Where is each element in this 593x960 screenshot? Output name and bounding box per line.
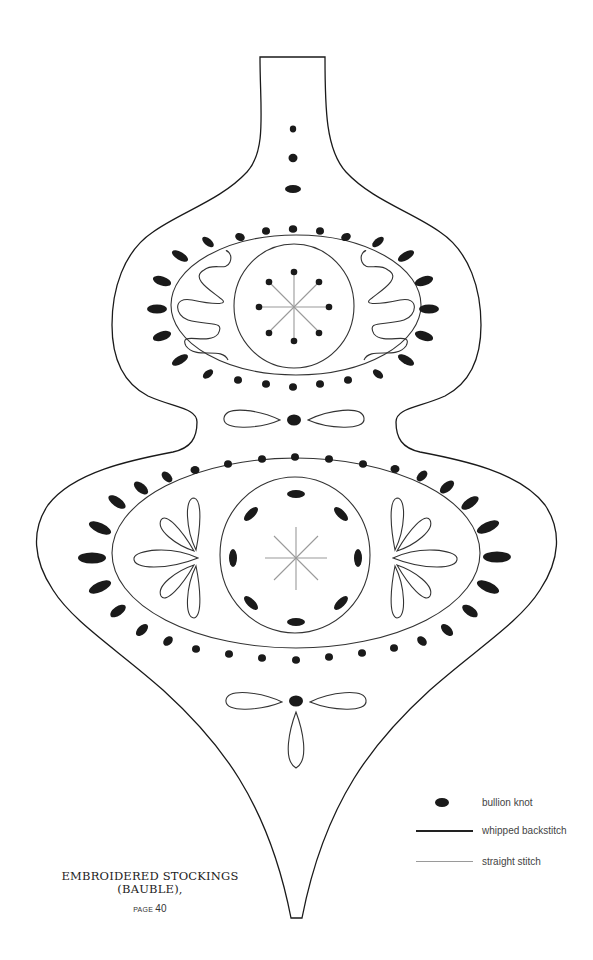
whipped-backstitch-line-icon — [416, 823, 473, 837]
lower-circle — [220, 477, 370, 633]
legend-label: whipped backstitch — [482, 825, 567, 836]
page-label: PAGE — [133, 906, 153, 913]
upper-medallion — [171, 235, 421, 375]
straight-stitch-line-icon — [416, 854, 473, 868]
caption-title-line-2: (BAUBLE), — [30, 883, 270, 896]
waist-motif — [224, 410, 364, 427]
legend-item-whipped-backstitch: whipped backstitch — [416, 823, 567, 837]
legend-item-straight-stitch: straight stitch — [416, 854, 541, 868]
legend-item-bullion-knot: bullion knot — [416, 795, 533, 809]
bauble-template — [0, 0, 593, 960]
page-reference: PAGE40 — [30, 902, 270, 916]
legend-label: bullion knot — [482, 797, 533, 808]
legend-label: straight stitch — [482, 856, 541, 867]
bullion-knot-icon — [416, 795, 473, 809]
page-number: 40 — [155, 903, 167, 914]
bottom-motif — [226, 693, 366, 768]
pattern-caption: EMBROIDERED STOCKINGS (BAUBLE), PAGE40 — [30, 870, 270, 916]
neck-bullion-knots — [285, 126, 301, 193]
lower-medallion — [112, 458, 480, 648]
